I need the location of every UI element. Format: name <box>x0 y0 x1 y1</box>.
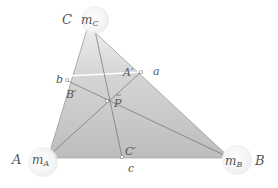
point-b-marker <box>65 78 68 81</box>
point-a-marker <box>139 70 142 73</box>
point-label-a: a <box>153 65 160 78</box>
point-label-b: b <box>56 73 63 86</box>
point-label-c-prime: C′ <box>125 145 136 158</box>
mass-label-c-main: m <box>81 13 92 27</box>
barycentric-triangle-diagram: C mC A mA mB B A′ a b B′ P C′ c <box>0 0 278 188</box>
mass-label-a-sub: A <box>42 159 49 168</box>
point-label-a-prime: A′ <box>122 66 134 79</box>
point-label-c: c <box>128 162 134 175</box>
vertex-label-b: B <box>254 153 265 168</box>
point-label-p: P <box>113 97 122 110</box>
mass-label-a-main: m <box>32 153 43 167</box>
vertex-label-a: A <box>11 152 21 167</box>
point-label-b-prime: B′ <box>65 88 77 101</box>
mass-label-b-main: m <box>225 154 236 168</box>
mass-label-b-sub: B <box>235 160 242 169</box>
point-p-marker <box>106 100 109 103</box>
point-c-marker <box>120 155 123 158</box>
mass-label-c-sub: C <box>92 19 98 28</box>
vertex-label-c: C <box>62 12 72 27</box>
